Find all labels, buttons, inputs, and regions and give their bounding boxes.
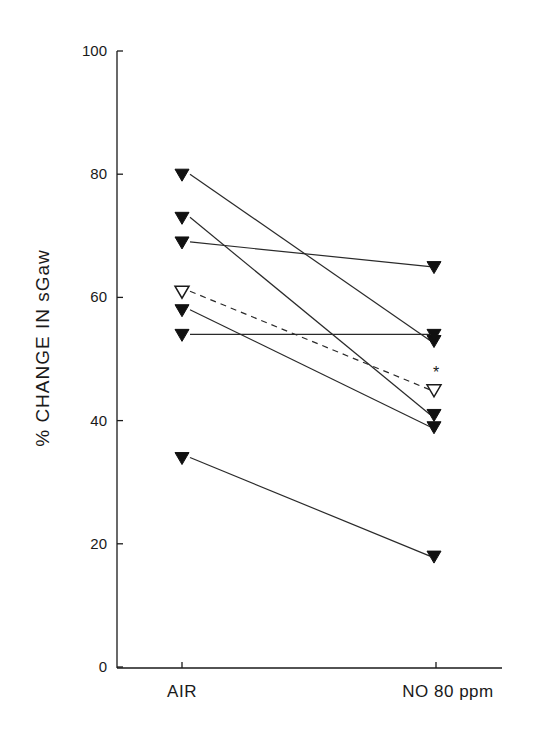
line-subject-4 xyxy=(190,310,430,427)
y-tick-label-80: 80 xyxy=(90,165,107,182)
axes xyxy=(117,51,502,668)
plot-area xyxy=(175,169,441,563)
filled-triangle-marker-icon xyxy=(427,422,441,434)
chart-canvas: % CHANGE IN sGaw 020406080100 AIR NO 80 … xyxy=(0,0,539,731)
filled-triangle-marker-icon xyxy=(175,305,189,317)
filled-triangle-marker-icon xyxy=(175,453,189,465)
filled-triangle-marker-icon xyxy=(427,409,441,421)
line-subject-3 xyxy=(190,242,430,267)
y-tick-label-0: 0 xyxy=(99,658,107,675)
open-triangle-marker-icon xyxy=(427,385,441,397)
y-tick-label-100: 100 xyxy=(82,42,107,59)
line-mean xyxy=(190,291,430,390)
x-label-air: AIR xyxy=(167,682,197,701)
filled-triangle-marker-icon xyxy=(175,237,189,249)
filled-triangle-marker-icon xyxy=(175,212,189,224)
significance-asterisk: * xyxy=(433,364,439,381)
line-subject-6 xyxy=(190,458,430,557)
y-tick-label-40: 40 xyxy=(90,412,107,429)
open-triangle-marker-icon xyxy=(175,286,189,298)
y-tick-label-20: 20 xyxy=(90,535,107,552)
filled-triangle-marker-icon xyxy=(427,551,441,563)
y-axis-title: % CHANGE IN sGaw xyxy=(32,249,53,447)
filled-triangle-marker-icon xyxy=(175,169,189,181)
y-tick-label-60: 60 xyxy=(90,288,107,305)
x-label-no-80ppm: NO 80 ppm xyxy=(402,682,493,701)
filled-triangle-marker-icon xyxy=(175,329,189,341)
filled-triangle-marker-icon xyxy=(427,262,441,274)
